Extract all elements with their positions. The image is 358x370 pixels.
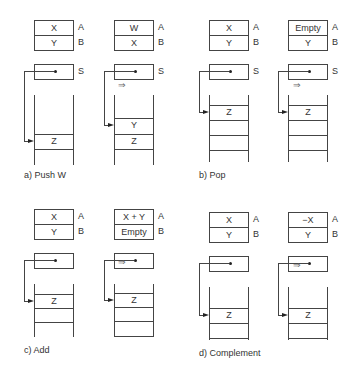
stack-row-line <box>288 120 328 121</box>
panel-caption: c) Add <box>24 345 50 355</box>
panel-caption: b) Pop <box>199 170 226 180</box>
arrowhead-icon <box>203 110 209 114</box>
register-a-label: A <box>158 211 164 221</box>
panel-caption: a) Push W <box>24 170 66 180</box>
transition-arrow-icon: ⇒ <box>293 80 301 90</box>
stack-row-line <box>209 308 249 309</box>
pointer-line <box>278 71 279 112</box>
stack-cell: Z <box>34 296 74 306</box>
stack-row-line <box>288 135 328 136</box>
stack-row-line <box>209 135 249 136</box>
pointer-dot <box>308 262 311 265</box>
stack-row-line <box>288 338 328 339</box>
stack-row-line <box>209 323 249 324</box>
pointer-dot <box>229 70 232 73</box>
register-b-label: B <box>78 226 84 236</box>
stack-left-wall <box>114 284 115 337</box>
register-a: W <box>114 20 154 36</box>
pointer-dot <box>54 259 57 262</box>
pointer-line <box>199 71 229 72</box>
register-b-label: B <box>158 37 164 47</box>
arrowhead-icon <box>282 313 288 317</box>
register-a: X <box>34 20 74 36</box>
register-b-label: B <box>332 37 338 47</box>
arrowhead-icon <box>282 110 288 114</box>
stack-row-line <box>209 150 249 151</box>
pointer-line <box>104 71 105 125</box>
pointer-line <box>199 263 200 315</box>
stack-right-wall <box>153 95 154 165</box>
register-a-label: A <box>158 22 164 32</box>
pointer-dot <box>308 70 311 73</box>
register-a-label: A <box>253 22 259 32</box>
stack-left-wall <box>34 284 35 337</box>
stack-pointer-label: S <box>332 66 338 76</box>
stack-row-line <box>34 294 74 295</box>
register-a-label: A <box>332 214 338 224</box>
register-b: Empty <box>114 224 154 240</box>
register-b: X <box>114 35 154 51</box>
stack-row-line <box>34 149 74 150</box>
stack-left-wall <box>114 95 115 165</box>
stack-row-line <box>209 105 249 106</box>
stack-row-line <box>114 321 154 322</box>
stack-cell: Z <box>288 107 328 117</box>
register-a: X + Y <box>114 209 154 225</box>
stack-row-line <box>114 118 154 119</box>
register-a: Empty <box>288 20 328 36</box>
stack-pointer-label: S <box>78 66 84 76</box>
stack-pointer-label: S <box>158 66 164 76</box>
register-b: Y <box>288 227 328 243</box>
stack-row-line <box>34 322 74 323</box>
arrowhead-icon <box>28 139 34 143</box>
pointer-line <box>199 71 200 112</box>
pointer-line <box>104 260 105 300</box>
stack-row-line <box>288 323 328 324</box>
stack-row-line <box>288 150 328 151</box>
arrowhead-icon <box>203 313 209 317</box>
arrowhead-icon <box>108 123 114 127</box>
stack-left-wall <box>34 95 35 165</box>
stack-cell: Z <box>34 136 74 146</box>
register-a-label: A <box>78 211 84 221</box>
pointer-line <box>199 263 229 264</box>
pointer-dot <box>54 70 57 73</box>
register-b-label: B <box>253 37 259 47</box>
panel-caption: d) Complement <box>199 348 261 358</box>
stack-row-line <box>288 105 328 106</box>
stack-pointer-label: S <box>253 66 259 76</box>
stack-row-line <box>114 149 154 150</box>
pointer-dot <box>134 70 137 73</box>
stack-row-line <box>209 120 249 121</box>
stack-row-line <box>114 293 154 294</box>
pointer-dot <box>229 262 232 265</box>
register-a: X <box>209 212 249 228</box>
stack-cell: Z <box>114 295 154 305</box>
arrowhead-icon <box>28 299 34 303</box>
stack-cell: Y <box>114 120 154 130</box>
stack-cell: Z <box>209 310 249 320</box>
register-a: −X <box>288 212 328 228</box>
stack-row-line <box>114 307 154 308</box>
pointer-dot <box>134 259 137 262</box>
arrowhead-icon <box>108 298 114 302</box>
register-b: Y <box>209 227 249 243</box>
stack-cell: Z <box>288 310 328 320</box>
register-b-label: B <box>253 229 259 239</box>
stack-row-line <box>34 308 74 309</box>
stack-cell: Z <box>209 107 249 117</box>
register-b-label: B <box>78 37 84 47</box>
pointer-line <box>278 71 308 72</box>
register-b-label: B <box>332 229 338 239</box>
register-a-label: A <box>332 22 338 32</box>
stack-cell: Z <box>114 136 154 146</box>
pointer-line <box>24 260 54 261</box>
pointer-line <box>24 71 54 72</box>
register-b-label: B <box>158 226 164 236</box>
transition-arrow-icon: ⇒ <box>293 260 301 270</box>
register-b: Y <box>209 35 249 51</box>
stack-right-wall <box>73 284 74 337</box>
stack-row-line <box>209 338 249 339</box>
pointer-line <box>278 263 279 315</box>
register-a: X <box>34 209 74 225</box>
